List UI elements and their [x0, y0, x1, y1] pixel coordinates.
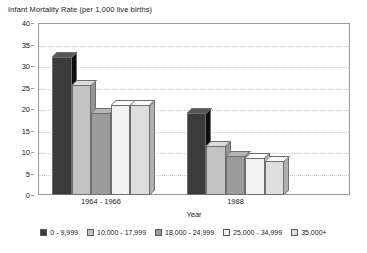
gridline: [39, 175, 349, 176]
gridlines: [39, 24, 349, 194]
gridline: [39, 153, 349, 154]
legend-swatch: [291, 229, 298, 236]
plot-area: [38, 23, 350, 195]
y-axis: 0510152025303540: [0, 23, 34, 195]
y-axis-tick-label: 0: [26, 191, 30, 200]
legend-label: 0 - 9,999: [50, 229, 78, 236]
y-axis-tick-mark: [31, 152, 34, 153]
y-axis-tick-label: 15: [22, 126, 30, 135]
legend-label: 18,000 - 24,999: [165, 229, 214, 236]
legend-label: 10,000 - 17,999: [97, 229, 146, 236]
y-axis-tick-mark: [31, 131, 34, 132]
chart-legend: 0 - 9,99910,000 - 17,99918,000 - 24,9992…: [0, 229, 367, 236]
y-axis-tick-label: 30: [22, 62, 30, 71]
y-axis-tick-label: 5: [26, 169, 30, 178]
y-axis-tick-mark: [31, 88, 34, 89]
x-axis-category-label: 1964 - 1966: [81, 197, 121, 206]
x-axis-category-labels: 1964 - 19661988: [38, 197, 350, 211]
y-axis-tick-label: 40: [22, 19, 30, 28]
chart-title: Infant Mortality Rate (per 1,000 live bi…: [8, 5, 152, 14]
y-axis-tick-mark: [31, 195, 34, 196]
legend-item[interactable]: 35,000+: [291, 229, 327, 236]
gridline: [39, 89, 349, 90]
gridline: [39, 67, 349, 68]
chart-container: Infant Mortality Rate (per 1,000 live bi…: [0, 0, 367, 253]
y-axis-tick-mark: [31, 45, 34, 46]
y-axis-tick-mark: [31, 109, 34, 110]
y-axis-tick-mark: [31, 174, 34, 175]
legend-item[interactable]: 25,000 - 34,999: [223, 229, 282, 236]
gridline: [39, 132, 349, 133]
legend-item[interactable]: 18,000 - 24,999: [155, 229, 214, 236]
legend-swatch: [155, 229, 162, 236]
legend-label: 25,000 - 34,999: [233, 229, 282, 236]
legend-swatch: [223, 229, 230, 236]
legend-swatch: [40, 229, 47, 236]
y-axis-tick-label: 20: [22, 105, 30, 114]
y-axis-tick-label: 35: [22, 40, 30, 49]
legend-label: 35,000+: [301, 229, 327, 236]
x-axis-title: Year: [38, 210, 350, 219]
legend-swatch: [87, 229, 94, 236]
legend-item[interactable]: 0 - 9,999: [40, 229, 78, 236]
y-axis-tick-mark: [31, 23, 34, 24]
gridline: [39, 46, 349, 47]
y-axis-tick-label: 10: [22, 148, 30, 157]
x-axis-category-label: 1988: [227, 197, 244, 206]
legend-item[interactable]: 10,000 - 17,999: [87, 229, 146, 236]
y-axis-tick-mark: [31, 66, 34, 67]
y-axis-tick-label: 25: [22, 83, 30, 92]
gridline: [39, 110, 349, 111]
